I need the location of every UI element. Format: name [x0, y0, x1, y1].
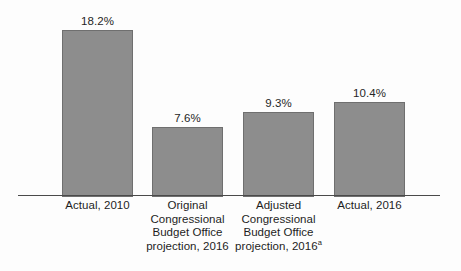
bar-value-label-1: 7.6%	[174, 112, 201, 124]
bar-group-0: 18.2%	[62, 30, 133, 197]
plot-area: 18.2% 7.6% 9.3% 10.4%	[0, 0, 461, 197]
bar-0[interactable]	[62, 30, 133, 197]
bar-3[interactable]	[334, 102, 405, 197]
category-label-2-line-1: Congressional	[223, 213, 334, 227]
bar-2[interactable]	[243, 112, 314, 197]
footnote-marker-a: a	[318, 238, 322, 247]
bar-group-1: 7.6%	[152, 127, 223, 197]
category-label-3: Actual, 2016	[314, 199, 425, 213]
bar-value-label-2: 9.3%	[265, 97, 292, 109]
category-label-2-line-3-text: projection, 2016	[235, 240, 318, 252]
bar-value-label-0: 18.2%	[81, 15, 114, 27]
category-label-3-line-0: Actual, 2016	[314, 199, 425, 213]
bar-value-label-3: 10.4%	[353, 87, 386, 99]
bar-chart: 18.2% 7.6% 9.3% 10.4% Actual, 2010 Origi…	[0, 0, 461, 271]
bar-1[interactable]	[152, 127, 223, 197]
category-label-2-line-3: projection, 2016a	[223, 240, 334, 254]
bar-group-3: 10.4%	[334, 102, 405, 197]
category-labels: Actual, 2010 Original Congressional Budg…	[0, 199, 461, 271]
x-axis-line	[18, 195, 440, 196]
bar-group-2: 9.3%	[243, 112, 314, 197]
